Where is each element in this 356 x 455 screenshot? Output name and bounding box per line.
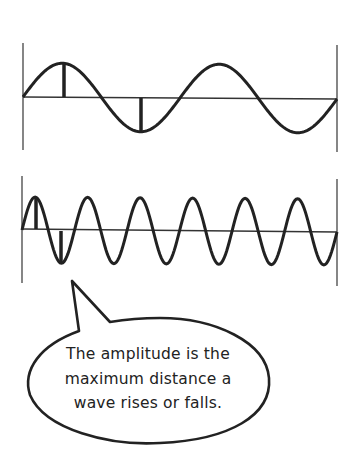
callout-text: The amplitude is the maximum distance a … (38, 342, 258, 416)
high-frequency-wave-panel (22, 176, 337, 286)
callout-line-1: The amplitude is the (38, 342, 258, 367)
callout-line-2: maximum distance a (38, 367, 258, 392)
low-frequency-wave-panel (23, 43, 337, 152)
callout-line-3: wave rises or falls. (38, 391, 258, 416)
